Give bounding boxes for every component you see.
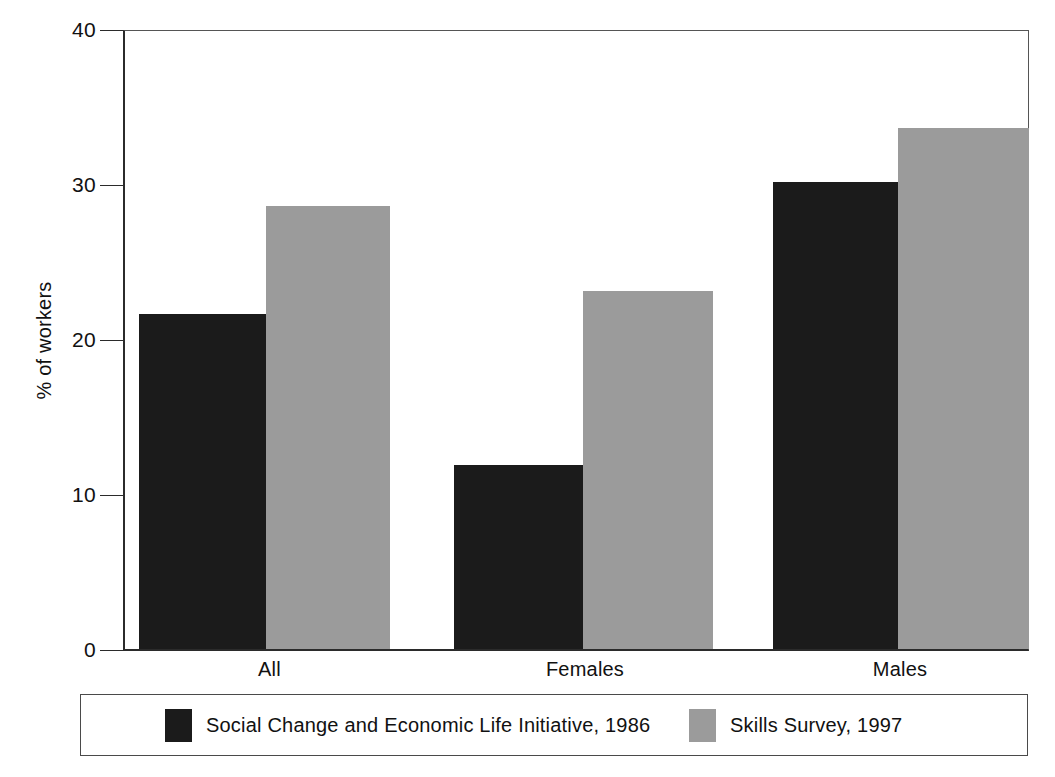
bar-chart-figure: % of workers 40 30 20 10 0 xyxy=(0,0,1055,777)
y-tick-20: 20 xyxy=(100,340,123,341)
plot-area xyxy=(123,30,1029,651)
y-tick-label-10: 10 xyxy=(32,483,96,507)
legend: Social Change and Economic Life Initiati… xyxy=(80,694,1028,756)
legend-label-scelI-1986: Social Change and Economic Life Initiati… xyxy=(206,714,650,737)
bar-males-scelI-1986 xyxy=(773,182,898,649)
x-tick-label-males: Males xyxy=(772,658,1028,681)
legend-item-scelI-1986: Social Change and Economic Life Initiati… xyxy=(165,695,650,755)
y-tick-label-40: 40 xyxy=(32,18,96,42)
y-tick-label-20: 20 xyxy=(32,328,96,352)
y-tick-label-30: 30 xyxy=(32,173,96,197)
y-tick-30: 30 xyxy=(100,185,123,186)
y-tick-40: 40 xyxy=(100,30,123,31)
x-tick-label-females: Females xyxy=(456,658,714,681)
y-tick-10: 10 xyxy=(100,495,123,496)
bar-females-scelI-1986 xyxy=(454,465,583,649)
legend-swatch-light-icon xyxy=(689,709,716,742)
y-tick-label-0: 0 xyxy=(32,638,96,662)
bar-males-skills-1997 xyxy=(898,128,1029,649)
legend-item-skills-1997: Skills Survey, 1997 xyxy=(689,695,902,755)
y-tick-0: 0 xyxy=(100,650,123,651)
bar-all-skills-1997 xyxy=(266,206,390,649)
bar-females-skills-1997 xyxy=(583,291,713,649)
bar-all-scelI-1986 xyxy=(139,314,266,649)
x-tick-label-all: All xyxy=(142,658,397,681)
legend-label-skills-1997: Skills Survey, 1997 xyxy=(730,714,902,737)
legend-swatch-dark-icon xyxy=(165,709,192,742)
bars-layer xyxy=(125,31,1028,649)
